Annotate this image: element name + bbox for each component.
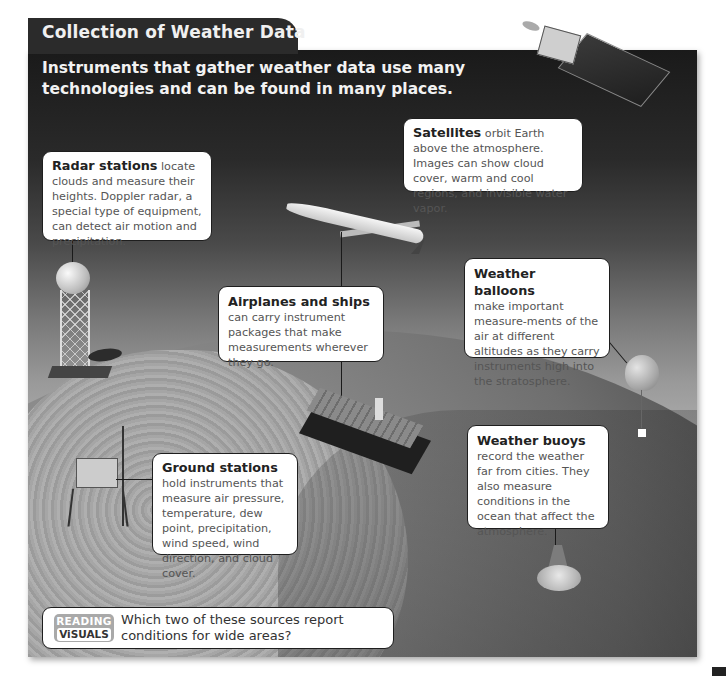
satellite-antenna-icon — [521, 19, 541, 33]
callout-airplanes-text: can carry instrument packages that make … — [228, 311, 368, 369]
callout-ground-heading: Ground stations — [162, 460, 278, 475]
callout-radar-text: locate clouds and measure their heights.… — [52, 160, 202, 248]
weather-balloon-icon — [625, 355, 659, 391]
callout-ground-text: hold instruments that measure air pressu… — [162, 477, 284, 580]
callout-balloons-heading: Weather balloons — [474, 265, 600, 299]
callout-satellites: Satellites orbit Earth above the atmosph… — [403, 118, 583, 192]
callout-ground-stations: Ground stations hold instruments that me… — [152, 453, 298, 555]
callout-weather-buoys: Weather buoysrecord the weather far from… — [467, 425, 609, 529]
ground-station-shelter-icon — [76, 458, 118, 488]
balloon-instrument-icon — [637, 428, 647, 438]
reading-visuals-badge: READING ViSUALS — [54, 614, 114, 642]
radar-dome-icon — [56, 262, 90, 294]
callout-buoys-heading: Weather buoys — [477, 432, 599, 449]
ground-connector — [116, 479, 152, 480]
page-edge-marker — [712, 667, 726, 676]
reading-visuals-box: READING ViSUALS Which two of these sourc… — [42, 607, 394, 649]
callout-satellites-heading: Satellites — [413, 125, 481, 140]
callout-radar-stations: Radar stations locate clouds and measure… — [42, 151, 212, 241]
badge-reading-label: READING — [54, 615, 114, 627]
radar-base-icon — [48, 366, 112, 378]
callout-balloons-text: make important measure-ments of the air … — [474, 300, 600, 388]
callout-airplanes-heading: Airplanes and ships — [228, 293, 374, 310]
reading-visuals-question: Which two of these sources report condit… — [121, 612, 389, 644]
page-title: Collection of Weather Data — [42, 22, 306, 42]
weather-buoy-icon — [537, 565, 581, 591]
ground-station-legs-icon — [67, 489, 128, 527]
callout-radar-heading: Radar stations — [52, 158, 157, 173]
badge-visuals-label: ViSUALS — [57, 628, 111, 641]
airplane-connector — [341, 232, 342, 287]
balloon-tether-icon — [641, 390, 642, 430]
callout-weather-balloons: Weather balloonsmake important measure-m… — [464, 258, 610, 358]
callout-buoys-text: record the weather far from cities. They… — [477, 450, 595, 538]
radar-tower-icon — [60, 290, 90, 370]
callout-airplanes-ships: Airplanes and shipscan carry instrument … — [218, 286, 384, 362]
ship-smokestack-icon — [375, 398, 383, 420]
page-subtitle: Instruments that gather weather data use… — [42, 58, 562, 100]
